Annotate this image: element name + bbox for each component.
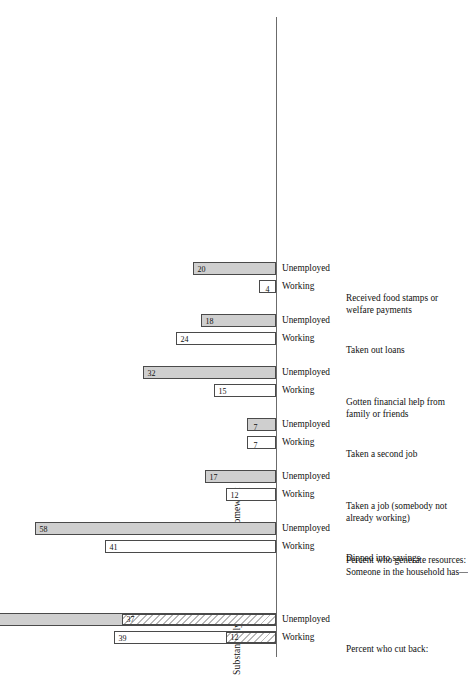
row-label-food-stamps: Received food stamps or welfare payments (346, 293, 438, 316)
bar-working[interactable]: 12 (226, 488, 276, 501)
bar-working[interactable]: 41 (105, 540, 276, 553)
bar-unemployed[interactable]: 20 (193, 262, 276, 275)
series-tick-unemployed: Unemployed (282, 368, 330, 378)
bar-working[interactable]: 1239 (114, 631, 276, 644)
series-tick-working: Working (282, 334, 314, 344)
series-tick-working: Working (282, 282, 314, 292)
bar-unemployed[interactable]: 17 (205, 470, 276, 483)
bar-working[interactable]: 7 (247, 436, 276, 449)
series-tick-unemployed: Unemployed (282, 615, 330, 625)
series-tick-unemployed: Unemployed (282, 316, 330, 326)
bar-unemployed[interactable]: 32 (143, 366, 276, 379)
bar-value-label: 7 (253, 441, 257, 450)
bar-unemployed[interactable]: 7 (247, 418, 276, 431)
bar-segment-substantially: 12 (226, 632, 276, 643)
bar-value-label: 41 (110, 543, 118, 552)
series-tick-working: Working (282, 438, 314, 448)
bar-unemployed[interactable]: 18 (201, 314, 276, 327)
bar-value-label: 17 (210, 473, 218, 482)
bar-working[interactable]: 24 (176, 332, 276, 345)
section-header-cut-back: Percent who cut back: (346, 644, 428, 656)
bar-value-label: 4 (266, 285, 270, 294)
bar-value-label: 20 (197, 265, 205, 274)
series-tick-unemployed: Unemployed (282, 524, 330, 534)
series-tick-unemployed: Unemployed (282, 420, 330, 430)
row-label-taken-a-job: Taken a job (somebody not already workin… (346, 501, 447, 524)
bar-segment-value-label: 12 (231, 633, 239, 642)
bar-unemployed[interactable]: 58 (35, 522, 276, 535)
bar-value-label: 12 (231, 491, 239, 500)
series-tick-working: Working (282, 542, 314, 552)
row-label-dipped-into-savings: Dipped into savings (346, 553, 420, 565)
series-tick-working: Working (282, 386, 314, 396)
bar-value-label: 24 (181, 335, 189, 344)
bar-working[interactable]: 4 (259, 280, 276, 293)
bar-segment-substantially: 37 (122, 614, 276, 625)
row-label-financial-help: Gotten financial help from family or fri… (346, 397, 445, 420)
row-label-taken-out-loans: Taken out loans (346, 345, 405, 357)
bar-value-label: 15 (218, 387, 226, 396)
series-tick-unemployed: Unemployed (282, 264, 330, 274)
category-axis-baseline (276, 17, 277, 657)
bar-value-label: 39 (118, 634, 126, 643)
series-tick-working: Working (282, 490, 314, 500)
series-tick-unemployed: Unemployed (282, 472, 330, 482)
bar-value-label: 32 (147, 369, 155, 378)
series-tick-working: Working (282, 633, 314, 643)
row-label-taken-second-job: Taken a second job (346, 449, 417, 461)
bar-value-label: 58 (39, 525, 47, 534)
bar-segment-value-label: 37 (127, 615, 135, 624)
bar-working[interactable]: 15 (214, 384, 276, 397)
bar-value-label: 7 (253, 423, 257, 432)
bar-value-label: 18 (206, 317, 214, 326)
bar-unemployed[interactable]: 3742 (0, 613, 276, 626)
